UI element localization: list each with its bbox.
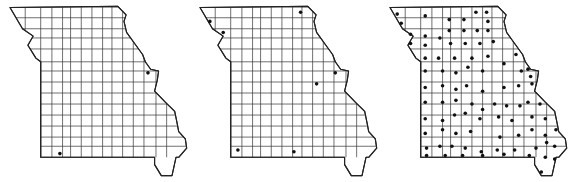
occurrence-dot xyxy=(544,155,548,159)
occurrence-dot xyxy=(58,152,62,156)
occurrence-dot xyxy=(481,154,485,158)
occurrence-dot xyxy=(465,84,469,88)
occurrence-dot xyxy=(485,10,489,14)
occurrence-dot xyxy=(519,69,523,73)
occurrence-dot xyxy=(514,53,518,57)
distribution-map-2 xyxy=(190,0,380,182)
occurrence-dot xyxy=(425,154,429,158)
occurrence-dot xyxy=(461,154,465,158)
occurrence-dot xyxy=(479,150,483,154)
occurrence-dot xyxy=(530,115,534,119)
missouri-map-2 xyxy=(190,0,380,182)
occurrence-dot xyxy=(450,144,454,148)
occurrence-dot xyxy=(443,154,447,158)
occurrence-dot xyxy=(423,56,427,60)
occurrence-dot xyxy=(505,104,509,108)
occurrence-dot xyxy=(441,69,445,73)
occurrence-dot xyxy=(481,108,485,112)
occurrence-dot xyxy=(315,82,319,86)
occurrence-dot xyxy=(530,82,534,86)
occurrence-dot xyxy=(423,14,427,18)
occurrence-dot xyxy=(517,133,521,137)
missouri-map-1 xyxy=(0,0,190,182)
occurrence-dot xyxy=(463,42,467,46)
occurrence-dot xyxy=(478,42,482,46)
occurrence-dot xyxy=(518,104,522,108)
occurrence-dot xyxy=(438,144,442,148)
occurrence-dot xyxy=(498,135,502,139)
occurrence-dot xyxy=(208,20,212,24)
occurrence-dot xyxy=(441,84,445,88)
occurrence-dot xyxy=(292,150,296,154)
occurrence-dot xyxy=(466,66,470,70)
occurrence-dot xyxy=(454,88,458,92)
occurrence-dot xyxy=(221,31,225,35)
occurrence-dot xyxy=(481,89,485,93)
occurrence-dot xyxy=(454,71,458,75)
occurrence-dot xyxy=(544,117,548,121)
occurrence-dot xyxy=(554,128,558,132)
occurrence-dot xyxy=(462,18,466,22)
occurrence-dot xyxy=(423,117,427,121)
occurrence-dot xyxy=(528,154,532,158)
occurrence-dot xyxy=(454,99,458,103)
occurrence-dot xyxy=(486,29,490,33)
occurrence-dot xyxy=(497,115,501,119)
occurrence-dot xyxy=(540,170,544,174)
occurrence-dot xyxy=(299,10,303,14)
occurrence-dot xyxy=(534,146,538,150)
occurrence-dot xyxy=(553,157,557,161)
occurrence-dot xyxy=(441,128,445,132)
occurrence-dot xyxy=(236,148,240,152)
occurrence-dot xyxy=(395,12,399,16)
occurrence-dot xyxy=(437,56,441,60)
occurrence-dot xyxy=(449,42,453,46)
occurrence-dot xyxy=(441,100,445,104)
occurrence-dot xyxy=(470,56,474,60)
occurrence-dot xyxy=(462,29,466,33)
occurrence-dot xyxy=(502,86,506,90)
occurrence-dot xyxy=(453,56,457,60)
occurrence-dot xyxy=(510,119,514,123)
occurrence-dot xyxy=(469,130,473,134)
occurrence-dot xyxy=(495,148,499,152)
state-outline xyxy=(200,6,377,175)
occurrence-dot xyxy=(544,133,548,137)
occurrence-dot xyxy=(425,146,429,150)
occurrence-dot xyxy=(447,29,451,33)
occurrence-dot xyxy=(529,75,533,79)
occurrence-dot xyxy=(423,69,427,73)
occurrence-dot xyxy=(423,100,427,104)
occurrence-dot xyxy=(453,113,457,117)
occurrence-dot xyxy=(463,146,467,150)
occurrence-dot xyxy=(474,10,478,14)
occurrence-dot xyxy=(530,128,534,132)
occurrence-dot xyxy=(463,111,467,115)
occurrence-dot xyxy=(481,69,485,73)
occurrence-dot xyxy=(146,71,150,75)
occurrence-dot xyxy=(470,102,474,106)
occurrence-dot xyxy=(502,153,506,157)
occurrence-dot xyxy=(538,102,542,106)
occurrence-dot xyxy=(478,117,482,121)
occurrence-dot xyxy=(526,67,530,71)
occurrence-dot xyxy=(486,20,490,24)
occurrence-dot xyxy=(441,119,445,123)
occurrence-dot xyxy=(553,144,557,148)
occurrence-dot xyxy=(447,18,451,22)
occurrence-dot xyxy=(486,55,490,59)
occurrence-dot xyxy=(423,132,427,136)
occurrence-dot xyxy=(493,102,497,106)
occurrence-dot xyxy=(334,71,338,75)
occurrence-dot xyxy=(502,62,506,66)
occurrence-dot xyxy=(545,141,549,145)
occurrence-dot xyxy=(517,84,521,88)
occurrence-dot xyxy=(423,43,427,47)
state-outline xyxy=(10,6,187,175)
occurrence-dot xyxy=(423,86,427,90)
occurrence-dot xyxy=(475,29,479,33)
distribution-map-3 xyxy=(380,0,570,182)
occurrence-dot xyxy=(423,34,427,38)
occurrence-dot xyxy=(399,21,403,25)
occurrence-dot xyxy=(491,40,495,44)
